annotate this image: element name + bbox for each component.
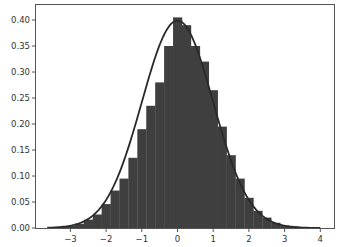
histogram-bar: [191, 46, 200, 228]
histogram-bar: [146, 106, 155, 228]
y-tick-label: 0.20: [11, 119, 30, 129]
y-tick-label: 0.30: [11, 67, 30, 77]
histogram-bar: [128, 158, 137, 228]
histogram-bar: [111, 191, 120, 228]
y-tick-label: 0.00: [11, 223, 30, 233]
x-tick-label: 0: [175, 234, 180, 244]
x-tick-label: 4: [318, 234, 323, 244]
x-tick-label: −3: [64, 234, 77, 244]
histogram-bar: [119, 179, 128, 228]
y-tick-label: 0.15: [11, 145, 30, 155]
y-tick-label: 0.40: [11, 15, 30, 25]
y-tick-label: 0.05: [11, 197, 30, 207]
histogram-bar: [137, 129, 146, 228]
x-tick-label: 1: [210, 234, 215, 244]
y-tick-label: 0.10: [11, 171, 30, 181]
x-tick-label: 3: [282, 234, 287, 244]
y-axis-ticks: 0.000.050.100.150.200.250.300.350.40: [11, 15, 35, 233]
histogram-bar: [253, 211, 262, 228]
histogram-bar: [155, 82, 164, 228]
y-tick-label: 0.35: [11, 41, 30, 51]
histogram-bar: [227, 155, 236, 228]
histogram-bar: [173, 17, 182, 228]
histogram-bar: [164, 46, 173, 228]
x-tick-label: −2: [100, 234, 113, 244]
x-tick-label: −1: [136, 234, 149, 244]
y-tick-label: 0.25: [11, 93, 30, 103]
histogram-bar: [182, 25, 191, 228]
histogram-bar: [244, 198, 253, 228]
histogram-bars: [48, 17, 316, 228]
histogram-bar: [102, 204, 111, 228]
histogram-bar: [93, 214, 102, 228]
histogram-chart: −3−2−101234 0.000.050.100.150.200.250.30…: [0, 0, 344, 247]
x-tick-label: 2: [246, 234, 251, 244]
histogram-bar: [236, 179, 245, 228]
histogram-bar: [200, 62, 209, 228]
x-axis-ticks: −3−2−101234: [64, 229, 323, 245]
